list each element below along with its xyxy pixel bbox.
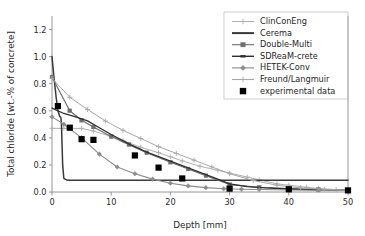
x-tick-label: 50 xyxy=(343,197,353,207)
legend-item-label: Freund/Langmuir xyxy=(260,74,330,84)
series-marker-square xyxy=(241,43,245,47)
experimental-data-point xyxy=(286,186,292,192)
y-tick-label: 0.2 xyxy=(33,160,46,170)
y-axis: 0.00.20.40.60.81.01.2 xyxy=(33,16,52,197)
experimental-data-point xyxy=(179,175,185,181)
x-tick-label: 10 xyxy=(106,197,116,207)
y-tick-label: 1.2 xyxy=(33,25,46,35)
legend-item-label: HETEK-Conv xyxy=(260,62,310,72)
experimental-data-point xyxy=(79,136,85,142)
series-marker-square xyxy=(68,109,72,113)
y-axis-title: Total chloride [wt.-% of concrete] xyxy=(6,31,16,178)
x-axis-title: Depth [mm] xyxy=(173,220,227,230)
legend-item-label: Double-Multi xyxy=(260,39,312,49)
y-tick-label: 0.8 xyxy=(33,79,46,89)
y-tick-label: 1.0 xyxy=(33,52,46,62)
legend[interactable]: ClinConEngCeremaDouble-MultiSDReaM-crete… xyxy=(224,12,348,99)
y-tick-label: 0.4 xyxy=(33,133,46,143)
experimental-data-point xyxy=(67,125,73,131)
experimental-data-point xyxy=(345,187,351,193)
y-tick-label: 0.6 xyxy=(33,106,46,116)
experimental-data-point xyxy=(155,165,161,171)
x-tick-label: 20 xyxy=(165,197,175,207)
experimental-data-point xyxy=(227,186,233,192)
x-tick-label: 0 xyxy=(49,197,54,207)
experimental-data-point xyxy=(90,137,96,143)
chart-canvas: 0.00.20.40.60.81.01.2 01020304050 ClinCo… xyxy=(0,0,365,236)
experimental-data-point xyxy=(55,103,61,109)
x-tick-label: 30 xyxy=(224,197,234,207)
legend-item-label: Cerema xyxy=(260,28,292,38)
chart-figure: 0.00.20.40.60.81.01.2 01020304050 ClinCo… xyxy=(0,0,365,236)
legend-marker-square xyxy=(240,88,246,94)
legend-item-label: ClinConEng xyxy=(260,16,307,26)
y-tick-label: 0.0 xyxy=(33,187,46,197)
x-tick-label: 40 xyxy=(284,197,294,207)
experimental-data-point xyxy=(132,152,138,158)
legend-item-label: experimental data xyxy=(260,86,335,96)
legend-item-label: SDReaM-crete xyxy=(260,51,318,61)
